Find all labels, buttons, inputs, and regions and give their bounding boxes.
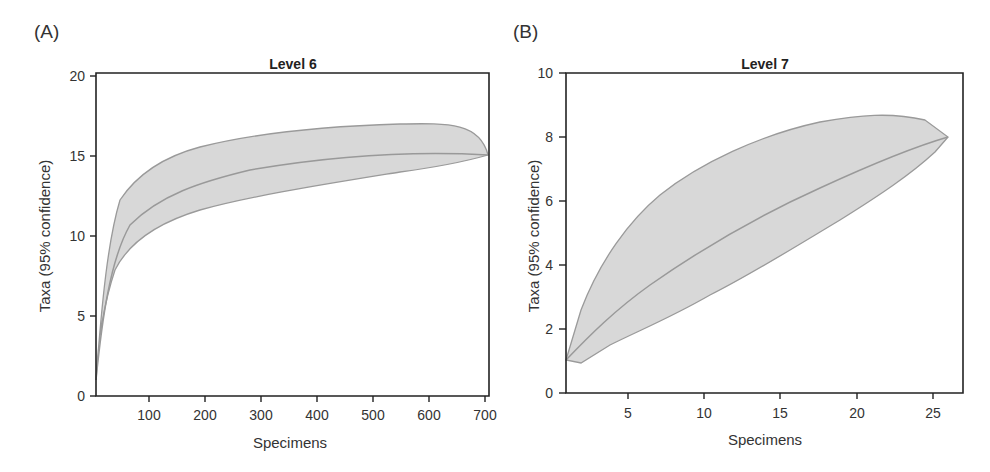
- svg-text:8: 8: [545, 129, 553, 145]
- panel-b-confidence-band: [566, 115, 948, 363]
- panel-b: (B) Level 7 0 2 4 6 8 10: [513, 21, 963, 448]
- panel-a-y-tick-labels: 0 5 10 15 20: [69, 68, 85, 404]
- svg-text:0: 0: [77, 388, 85, 404]
- panel-b-y-ticks: [559, 73, 566, 393]
- svg-text:100: 100: [137, 407, 161, 423]
- figure: (A) Level 6 0 5 10 15 20: [0, 0, 990, 472]
- panel-b-x-axis-label: Specimens: [728, 431, 802, 448]
- svg-text:300: 300: [249, 407, 273, 423]
- svg-text:10: 10: [537, 65, 553, 81]
- panel-a-confidence-band: [96, 124, 488, 380]
- panel-a: (A) Level 6 0 5 10 15 20: [34, 21, 497, 451]
- svg-text:15: 15: [69, 148, 85, 164]
- panel-a-y-ticks: [90, 76, 96, 396]
- svg-text:700: 700: [473, 407, 497, 423]
- panel-a-label: (A): [34, 21, 59, 42]
- panel-a-x-axis-label: Specimens: [253, 434, 327, 451]
- svg-text:6: 6: [545, 193, 553, 209]
- svg-text:500: 500: [361, 407, 385, 423]
- panel-a-x-ticks: [149, 396, 485, 402]
- svg-text:400: 400: [305, 407, 329, 423]
- svg-text:5: 5: [77, 308, 85, 324]
- svg-text:5: 5: [624, 405, 632, 421]
- svg-text:15: 15: [772, 405, 788, 421]
- svg-text:2: 2: [545, 321, 553, 337]
- panel-a-x-tick-labels: 100 200 300 400 500 600 700: [137, 407, 497, 423]
- panel-a-y-axis-label: Taxa (95% confidence): [36, 160, 53, 313]
- panel-b-x-tick-labels: 5 10 15 20 25: [624, 405, 941, 421]
- svg-text:10: 10: [696, 405, 712, 421]
- svg-text:200: 200: [193, 407, 217, 423]
- svg-text:0: 0: [545, 385, 553, 401]
- panel-b-x-ticks: [628, 393, 933, 399]
- svg-text:20: 20: [69, 68, 85, 84]
- panel-b-title: Level 7: [741, 56, 789, 72]
- svg-text:600: 600: [417, 407, 441, 423]
- svg-text:20: 20: [849, 405, 865, 421]
- panel-a-title: Level 6: [269, 56, 317, 72]
- panel-b-y-axis-label: Taxa (95% confidence): [525, 160, 542, 313]
- panel-b-label: (B): [513, 21, 538, 42]
- svg-text:4: 4: [545, 257, 553, 273]
- svg-text:25: 25: [925, 405, 941, 421]
- panel-a-axes: [96, 73, 489, 396]
- svg-text:10: 10: [69, 228, 85, 244]
